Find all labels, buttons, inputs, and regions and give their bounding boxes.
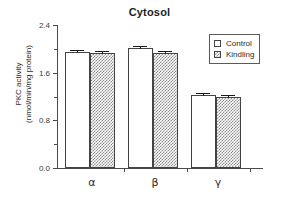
legend-swatch-kindling-icon: [214, 51, 221, 58]
bar-gamma-control[interactable]: [191, 95, 216, 168]
y-axis-label-line2: (nmol/min/mg protein): [24, 14, 34, 154]
y-tick-label-1.6: 1.6: [24, 69, 50, 78]
y-tick-0.0: [53, 168, 57, 169]
errorbar-stem-alpha-control: [77, 50, 78, 53]
chart-figure: Cytosol PKC activity (nmol/min/mg protei…: [0, 0, 299, 202]
y-tick-label-0.8: 0.8: [24, 116, 50, 125]
bar-beta-kindling[interactable]: [153, 53, 178, 168]
legend-item-control[interactable]: Control: [214, 38, 254, 49]
legend-swatch-control-icon: [214, 40, 221, 47]
legend-label-control: Control: [226, 39, 252, 48]
x-tick-separator-3: [250, 168, 251, 172]
chart-legend: Control Kindling: [209, 34, 260, 64]
x-tick-separator-2: [187, 168, 188, 172]
bar-alpha-control[interactable]: [65, 52, 90, 168]
errorbar-stem-beta-kindling: [165, 51, 166, 54]
errorbar-stem-gamma-kindling: [228, 95, 229, 98]
bar-alpha-kindling[interactable]: [90, 53, 115, 168]
x-category-label-beta: β: [135, 176, 175, 189]
bar-beta-control[interactable]: [128, 48, 153, 168]
x-tick-separator-1: [124, 168, 125, 172]
y-axis-label: PKC activity (nmol/min/mg protein): [14, 14, 34, 154]
errorbar-stem-beta-control: [140, 46, 141, 49]
legend-label-kindling: Kindling: [226, 50, 254, 59]
x-axis-line: [57, 168, 263, 169]
x-category-label-alpha: α: [72, 176, 112, 189]
y-tick-label-2.4: 2.4: [24, 21, 50, 30]
errorbar-stem-alpha-kindling: [102, 51, 103, 54]
x-category-label-gamma: γ: [198, 176, 238, 189]
y-tick-label-0.0: 0.0: [24, 164, 50, 173]
legend-item-kindling[interactable]: Kindling: [214, 49, 254, 60]
y-axis-label-line1: PKC activity: [14, 14, 24, 154]
bar-gamma-kindling[interactable]: [216, 97, 241, 168]
chart-title: Cytosol: [0, 6, 299, 18]
errorbar-stem-gamma-control: [203, 93, 204, 96]
